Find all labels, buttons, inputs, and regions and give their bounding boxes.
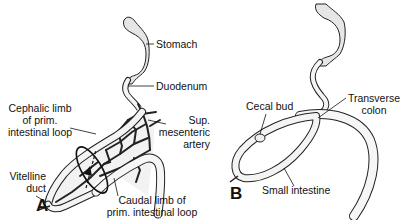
label-superior-mesenteric-artery: Sup. mesenteric artery: [158, 114, 210, 150]
label-line: Caudal limb of: [96, 194, 208, 206]
label-small-intestine: Small intestine: [262, 184, 330, 196]
label-line: intestinal loop: [0, 126, 80, 138]
label-stomach: Stomach: [156, 38, 197, 50]
label-line: artery: [158, 138, 210, 150]
label-cephalic-limb: Cephalic limb of prim. intestinal loop: [0, 102, 80, 138]
cecal-bud: [255, 134, 265, 142]
panel-letter-b: B: [230, 184, 242, 204]
label-line: duct: [2, 182, 46, 194]
label-line: of prim.: [0, 114, 80, 126]
label-duodenum: Duodenum: [156, 80, 207, 92]
label-line: colon: [342, 104, 406, 116]
label-transverse-colon: Transverse colon: [342, 92, 406, 116]
label-cecal-bud: Cecal bud: [246, 100, 293, 112]
stomach-shape: [123, 17, 149, 84]
label-line: mesenteric: [158, 126, 210, 138]
label-caudal-limb: Caudal limb of prim. intestinal loop: [96, 194, 208, 218]
label-line: Cephalic limb: [0, 102, 80, 114]
label-line: Sup.: [158, 114, 210, 126]
label-line: Transverse: [342, 92, 406, 104]
label-line: prim. intestinal loop: [96, 206, 208, 218]
panel-letter-a: A: [36, 196, 48, 216]
label-vitelline-duct: Vitelline duct: [2, 170, 46, 194]
stomach-b-shape: [315, 4, 345, 66]
label-line: Vitelline: [2, 170, 46, 182]
